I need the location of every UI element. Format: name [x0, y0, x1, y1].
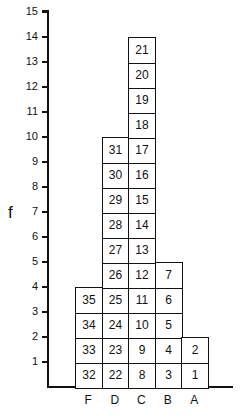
y-tick — [42, 336, 47, 338]
histogram-cell: 6 — [155, 287, 183, 314]
y-tick — [42, 161, 47, 163]
histogram-cell: 13 — [128, 237, 156, 264]
y-tick-label: 12 — [18, 80, 38, 92]
histogram-cell: 34 — [75, 312, 103, 339]
y-tick — [42, 211, 47, 213]
y-tick-label: 5 — [18, 255, 38, 267]
histogram-cell: 7 — [155, 262, 183, 289]
histogram-cell: 5 — [155, 312, 183, 339]
histogram-cell: 15 — [128, 187, 156, 214]
x-tick-label: F — [75, 393, 102, 407]
y-tick-label: 9 — [18, 155, 38, 167]
y-tick-label: 6 — [18, 230, 38, 242]
y-tick-label: 11 — [18, 105, 38, 117]
histogram-cell: 19 — [128, 87, 156, 114]
histogram-cell: 14 — [128, 212, 156, 239]
histogram-cell: 18 — [128, 112, 156, 139]
y-tick — [42, 361, 47, 363]
histogram-cell: 3 — [155, 362, 183, 389]
histogram-cell: 16 — [128, 162, 156, 189]
histogram-cell: 12 — [128, 262, 156, 289]
y-tick — [42, 111, 47, 113]
x-tick-label: C — [128, 393, 155, 407]
histogram-cell: 33 — [75, 337, 103, 364]
histogram-cell: 31 — [102, 137, 130, 164]
histogram-cell: 26 — [102, 262, 130, 289]
y-tick — [42, 311, 47, 313]
y-tick — [42, 61, 47, 63]
histogram-cell: 25 — [102, 287, 130, 314]
histogram-cell: 11 — [128, 287, 156, 314]
histogram-cell: 8 — [128, 362, 156, 389]
histogram-cell: 4 — [155, 337, 183, 364]
histogram-cell: 24 — [102, 312, 130, 339]
histogram-cell: 28 — [102, 212, 130, 239]
histogram-cell: 23 — [102, 337, 130, 364]
histogram-cell: 22 — [102, 362, 130, 389]
histogram-cell: 20 — [128, 62, 156, 89]
y-tick — [42, 136, 47, 138]
histogram-cell: 9 — [128, 337, 156, 364]
histogram-chart: f12345678910111213141532333435F222324252… — [0, 0, 243, 420]
histogram-cell: 1 — [181, 362, 209, 389]
y-tick-label: 3 — [18, 305, 38, 317]
histogram-cell: 17 — [128, 137, 156, 164]
histogram-cell: 10 — [128, 312, 156, 339]
x-tick-label: A — [181, 393, 208, 407]
y-tick-label: 8 — [18, 180, 38, 192]
y-tick — [42, 11, 47, 13]
y-tick-label: 15 — [18, 5, 38, 17]
y-tick — [42, 261, 47, 263]
y-axis-label: f — [8, 203, 13, 223]
y-tick-label: 7 — [18, 205, 38, 217]
y-tick-label: 13 — [18, 55, 38, 67]
histogram-cell: 32 — [75, 362, 103, 389]
histogram-cell: 30 — [102, 162, 130, 189]
histogram-cell: 2 — [181, 337, 209, 364]
histogram-cell: 21 — [128, 37, 156, 64]
y-tick-label: 10 — [18, 130, 38, 142]
y-tick — [42, 86, 47, 88]
y-tick-label: 14 — [18, 30, 38, 42]
y-axis — [47, 10, 49, 388]
y-tick — [42, 236, 47, 238]
y-tick — [42, 36, 47, 38]
histogram-cell: 29 — [102, 187, 130, 214]
histogram-cell: 27 — [102, 237, 130, 264]
y-tick-label: 4 — [18, 280, 38, 292]
y-tick-label: 1 — [18, 355, 38, 367]
x-tick-label: B — [155, 393, 182, 407]
x-tick-label: D — [102, 393, 129, 407]
histogram-cell: 35 — [75, 287, 103, 314]
y-tick — [42, 286, 47, 288]
y-tick — [42, 186, 47, 188]
y-tick-label: 2 — [18, 330, 38, 342]
